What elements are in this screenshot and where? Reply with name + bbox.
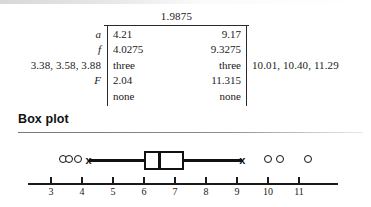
median-line	[158, 151, 160, 170]
lower-whisker	[89, 159, 144, 162]
x-axis-tick	[205, 177, 206, 184]
x-axis-tick-label: 3	[40, 186, 62, 198]
x-axis-tick-label: 9	[226, 186, 248, 198]
table-top-value: 1.9875	[107, 10, 246, 23]
table-top-rule	[104, 25, 249, 26]
section-heading: Box plot	[18, 112, 69, 127]
screenshot-page: 1.9875 a 4.21 9.17 f 4.0275 9.3275 3.38,…	[0, 0, 371, 207]
row-col2: 9.3275	[175, 42, 241, 57]
row-col2: three	[175, 58, 241, 73]
interquartile-box	[144, 151, 184, 170]
box-plot-section: Box plot 34567891011xx	[0, 112, 371, 207]
table-row: F 2.04 11.315	[0, 73, 371, 88]
x-axis-tick	[50, 177, 51, 184]
upper-whisker-cap-icon: x	[238, 154, 247, 167]
answer-table: 1.9875 a 4.21 9.17 f 4.0275 9.3275 3.38,…	[0, 6, 371, 106]
outlier-marker	[65, 155, 73, 163]
scan-artifact-band	[0, 0, 371, 4]
x-axis-tick-label: 11	[288, 186, 310, 198]
outlier-marker	[276, 155, 284, 163]
x-axis-tick	[236, 177, 237, 184]
section-divider	[18, 132, 363, 133]
upper-whisker	[184, 159, 242, 162]
x-axis-tick	[174, 177, 175, 184]
row-col1: three	[113, 58, 175, 73]
x-axis-tick	[298, 177, 299, 184]
outlier-marker	[304, 155, 312, 163]
table-row: a 4.21 9.17	[0, 27, 371, 42]
row-col2: none	[175, 89, 241, 104]
x-axis-tick-label: 10	[257, 186, 279, 198]
row-col1: 4.21	[113, 27, 175, 42]
row-label: a	[0, 27, 101, 42]
outlier-marker	[264, 155, 272, 163]
outlier-marker	[74, 155, 82, 163]
x-axis-tick-label: 4	[71, 186, 93, 198]
row-label: 3.38, 3.58, 3.88	[0, 58, 101, 73]
x-axis-tick-label: 7	[164, 186, 186, 198]
row-col1: 2.04	[113, 73, 175, 88]
table-rows: a 4.21 9.17 f 4.0275 9.3275 3.38, 3.58, …	[0, 27, 371, 104]
box-plot-figure: 34567891011xx	[0, 134, 371, 207]
x-axis-tick	[267, 177, 268, 184]
row-col1: 4.0275	[113, 42, 175, 57]
row-label: F	[0, 73, 101, 88]
x-axis-tick	[81, 177, 82, 184]
x-axis-tick	[143, 177, 144, 184]
x-axis-tick-label: 5	[102, 186, 124, 198]
table-row: f 4.0275 9.3275	[0, 42, 371, 57]
x-axis-tick-label: 6	[133, 186, 155, 198]
x-axis-tick	[112, 177, 113, 184]
table-row: 3.38, 3.58, 3.88 three three 10.01, 10.4…	[0, 58, 371, 73]
lower-whisker-cap-icon: x	[84, 154, 93, 167]
table-right-note: 10.01, 10.40, 11.29	[252, 58, 371, 73]
row-col2: 11.315	[175, 73, 241, 88]
table-row: none none	[0, 89, 371, 104]
row-col2: 9.17	[175, 27, 241, 42]
x-axis-line	[28, 183, 338, 185]
row-col1: none	[113, 89, 175, 104]
row-label: f	[0, 42, 101, 57]
x-axis-tick-label: 8	[195, 186, 217, 198]
